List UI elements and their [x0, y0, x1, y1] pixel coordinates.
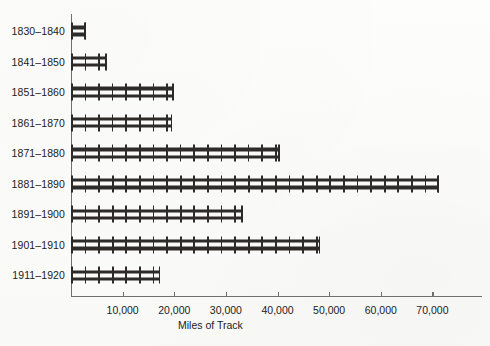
category-label: 1911–1920	[12, 269, 65, 281]
track-rail-top	[71, 209, 243, 212]
bar-row: 1851–1860	[71, 77, 482, 107]
track-rail-bottom	[71, 33, 86, 36]
track-rail-bottom	[71, 277, 160, 280]
x-tick-label: 60,000	[365, 304, 397, 316]
plot-area: 1830–18401841–18501851–18601861–18701871…	[71, 14, 482, 297]
track-rail-bottom	[71, 63, 107, 66]
x-tick-label: 20,000	[158, 304, 190, 316]
track-bar	[71, 267, 160, 284]
x-tick-label: 30,000	[210, 304, 242, 316]
x-tick-label: 10,000	[107, 304, 139, 316]
category-label: 1891–1900	[12, 208, 65, 220]
track-rail-bottom	[71, 94, 174, 97]
track-rail-bottom	[71, 155, 280, 158]
x-tick-label: 50,000	[313, 304, 345, 316]
x-tick-label: 70,000	[416, 304, 448, 316]
track-bar	[71, 175, 439, 192]
category-label: 1871–1880	[12, 147, 65, 159]
category-label: 1901–1910	[12, 239, 65, 251]
bar-row: 1830–1840	[71, 16, 482, 46]
track-rail-bottom	[71, 247, 320, 250]
track-rail-bottom	[71, 216, 243, 219]
track-rail-top	[71, 87, 174, 90]
track-rail-top	[71, 56, 107, 59]
x-axis-tick-labels: 10,00020,00030,00040,00050,00060,00070,0…	[71, 297, 482, 337]
track-bar	[71, 206, 243, 223]
track-bar	[71, 23, 86, 40]
track-rail-top	[71, 240, 320, 243]
track-rail-bottom	[71, 125, 172, 128]
bar-row: 1911–1920	[71, 260, 482, 290]
x-tick-label: 40,000	[261, 304, 293, 316]
track-rail-top	[71, 117, 172, 120]
bar-row: 1881–1890	[71, 169, 482, 199]
railroad-track-bar-chart: 1830–18401841–18501851–18601861–18701871…	[0, 0, 490, 346]
category-label: 1861–1870	[12, 117, 65, 129]
track-bar	[71, 53, 107, 70]
track-bar	[71, 84, 174, 101]
track-rail-top	[71, 148, 280, 151]
category-label: 1841–1850	[12, 56, 65, 68]
track-bar	[71, 145, 280, 162]
bar-row: 1841–1850	[71, 47, 482, 77]
bar-row: 1861–1870	[71, 108, 482, 138]
track-rail-top	[71, 270, 160, 273]
bar-row: 1891–1900	[71, 199, 482, 229]
bar-row: 1901–1910	[71, 230, 482, 260]
category-label: 1830–1840	[12, 25, 65, 37]
track-bar	[71, 236, 320, 253]
track-rail-bottom	[71, 186, 439, 189]
category-label: 1851–1860	[12, 86, 65, 98]
x-axis-title: Miles of Track	[178, 319, 243, 331]
track-bar	[71, 114, 172, 131]
bar-row: 1871–1880	[71, 138, 482, 168]
category-label: 1881–1890	[12, 178, 65, 190]
track-rail-top	[71, 178, 439, 181]
track-rail-top	[71, 26, 86, 29]
